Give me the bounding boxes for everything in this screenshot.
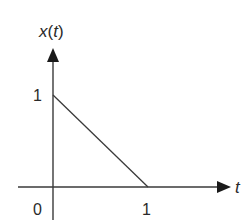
x-axis-arrow-icon — [217, 181, 231, 193]
signal-line — [53, 95, 148, 187]
y-axis-label-func: x — [38, 22, 48, 41]
signal-diagram: x(t) 1 0 1 t — [0, 0, 247, 220]
y-axis-label: x(t) — [38, 22, 64, 41]
y-tick-label: 1 — [33, 87, 42, 104]
origin-label: 0 — [33, 201, 42, 218]
x-tick-label: 1 — [142, 201, 151, 218]
y-axis-label-paren-close: ) — [58, 22, 64, 41]
x-axis-label: t — [235, 178, 241, 197]
y-axis-arrow-icon — [47, 48, 59, 62]
